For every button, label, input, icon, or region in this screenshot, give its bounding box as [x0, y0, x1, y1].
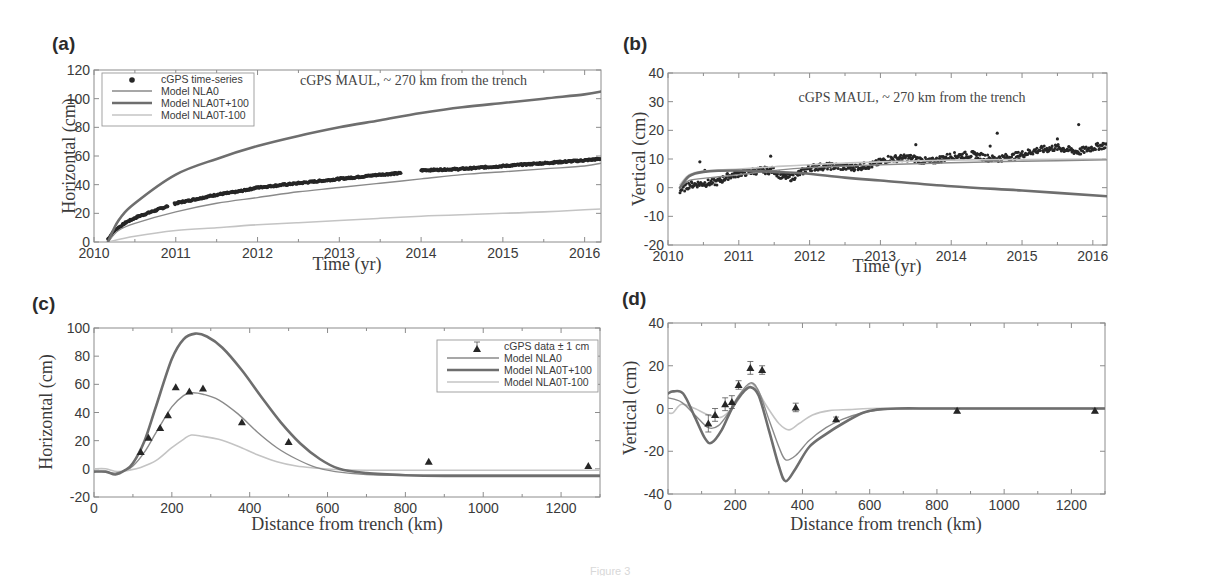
data-point-triangle: [832, 415, 840, 422]
x-tick-label: 1000: [468, 500, 499, 516]
y-tick-label: 20: [648, 122, 664, 138]
data-point-triangle: [746, 364, 754, 371]
outlier-point: [1077, 123, 1080, 126]
legend-entry-label: Model NLA0T+100: [504, 364, 592, 376]
x-tick-label: 200: [160, 500, 184, 516]
cgps-time-series: [106, 157, 602, 241]
legend-entry-label: Model NLA0T-100: [504, 376, 589, 388]
y-axis-title: Horizontal (cm): [36, 354, 57, 469]
y-tick-label: 40: [648, 65, 664, 81]
x-tick-label: 2015: [1006, 248, 1037, 264]
panel-label: (c): [32, 293, 55, 314]
outlier-point: [996, 132, 999, 135]
y-tick-label: -20: [644, 443, 664, 459]
x-tick-label: 800: [925, 497, 949, 513]
y-tick-label: 120: [67, 62, 91, 78]
y-tick-label: 0: [656, 401, 664, 417]
legend-dot-icon: [129, 77, 135, 83]
series-model-nla0t-100: [94, 435, 600, 472]
x-axis-title: Distance from trench (km): [251, 514, 442, 535]
outlier-point: [698, 160, 701, 163]
data-point-triangle: [185, 387, 193, 394]
x-tick-label: 2014: [406, 245, 437, 261]
y-tick-label: 40: [74, 405, 90, 421]
outlier-point: [769, 155, 772, 158]
plot-area: [668, 361, 1105, 481]
plot-area: [679, 123, 1108, 196]
x-tick-label: 2011: [161, 245, 191, 261]
x-tick-label: 400: [791, 497, 815, 513]
data-point-triangle: [172, 383, 180, 390]
y-tick-label: 0: [656, 180, 664, 196]
series-model-nla0: [94, 393, 600, 476]
data-point-triangle: [137, 448, 145, 455]
panel-label: (d): [622, 288, 646, 309]
y-tick-label: -10: [644, 208, 664, 224]
series-model-nla0t-100: [108, 209, 601, 242]
x-tick-label: 2012: [242, 245, 273, 261]
x-axis-title: Distance from trench (km): [790, 514, 981, 535]
legend-entry-label: Model NLA0T+100: [161, 97, 249, 109]
series-model-nla0: [668, 383, 1105, 460]
x-tick-label: 2012: [794, 248, 825, 264]
data-point-triangle: [711, 411, 719, 418]
x-axis-title: Time (yr): [853, 256, 922, 277]
x-tick-label: 2016: [1077, 248, 1108, 264]
y-tick-label: 30: [648, 94, 664, 110]
station-annotation: cGPS MAUL, ~ 270 km from the trench: [799, 90, 1026, 105]
data-point-triangle: [285, 438, 293, 445]
y-tick-label: -20: [644, 237, 664, 253]
x-tick-label: 2011: [724, 248, 754, 264]
x-tick-label: 0: [664, 497, 672, 513]
x-tick-label: 1200: [1056, 497, 1087, 513]
legend-entry-label: Model NLA0: [161, 85, 219, 97]
station-annotation: cGPS MAUL, ~ 270 km from the trench: [300, 73, 527, 88]
series-model-nla0: [680, 160, 1107, 188]
y-tick-label: 20: [648, 358, 664, 374]
y-tick-label: 20: [74, 433, 90, 449]
y-tick-label: 0: [82, 461, 90, 477]
outlier-point: [989, 145, 992, 148]
panel-d: (d)020040060080010001200-40-2002040Dista…: [620, 288, 1105, 535]
y-tick-label: 100: [67, 320, 91, 336]
data-point-triangle: [735, 381, 743, 388]
data-point-triangle: [425, 458, 433, 465]
y-tick-label: -40: [644, 486, 664, 502]
data-point-triangle: [758, 366, 766, 373]
x-tick-label: 600: [858, 497, 882, 513]
x-tick-label: 2016: [569, 245, 600, 261]
y-axis-title: Horizontal (cm): [59, 98, 80, 213]
y-tick-label: -20: [70, 489, 90, 505]
y-tick-label: 80: [74, 348, 90, 364]
x-tick-label: 2014: [936, 248, 967, 264]
y-tick-label: 40: [648, 315, 664, 331]
panel-a: (a)2010201120122013201420152016020406080…: [52, 33, 602, 275]
legend-entry-label: Model NLA0: [504, 352, 562, 364]
x-tick-label: 200: [724, 497, 748, 513]
legend-entry-label: Model NLA0T-100: [161, 109, 246, 121]
figure: (a)2010201120122013201420152016020406080…: [0, 0, 1213, 576]
y-tick-label: 0: [82, 234, 90, 250]
x-tick-label: 0: [90, 500, 98, 516]
data-point-triangle: [156, 424, 164, 431]
panel-c: (c)020040060080010001200-20020406080100D…: [32, 293, 600, 535]
data-point-triangle: [199, 385, 207, 392]
cgps-data-points: [137, 383, 593, 469]
cgps-data-points: [704, 361, 1099, 432]
outlier-point: [1056, 137, 1059, 140]
panel-label: (a): [52, 33, 75, 54]
data-point-triangle: [721, 400, 729, 407]
y-tick-label: 10: [648, 151, 664, 167]
x-tick-label: 2015: [487, 245, 518, 261]
legend-entry-label: cGPS time-series: [161, 73, 243, 85]
panel-b: (b)2010201120122013201420152016-20-10010…: [623, 33, 1109, 277]
outlier-point: [914, 143, 917, 146]
legend: cGPS data ± 1 cmModel NLA0Model NLA0T+10…: [437, 340, 598, 392]
legend-entry-label: cGPS data ± 1 cm: [504, 340, 589, 352]
y-axis-title: Vertical (cm): [629, 112, 650, 206]
x-axis-title: Time (yr): [313, 254, 382, 275]
figure-caption: Figure 3: [590, 565, 630, 576]
x-tick-label: 1200: [545, 500, 576, 516]
y-axis-title: Vertical (cm): [620, 361, 641, 455]
legend: cGPS time-seriesModel NLA0Model NLA0T+10…: [102, 73, 254, 126]
